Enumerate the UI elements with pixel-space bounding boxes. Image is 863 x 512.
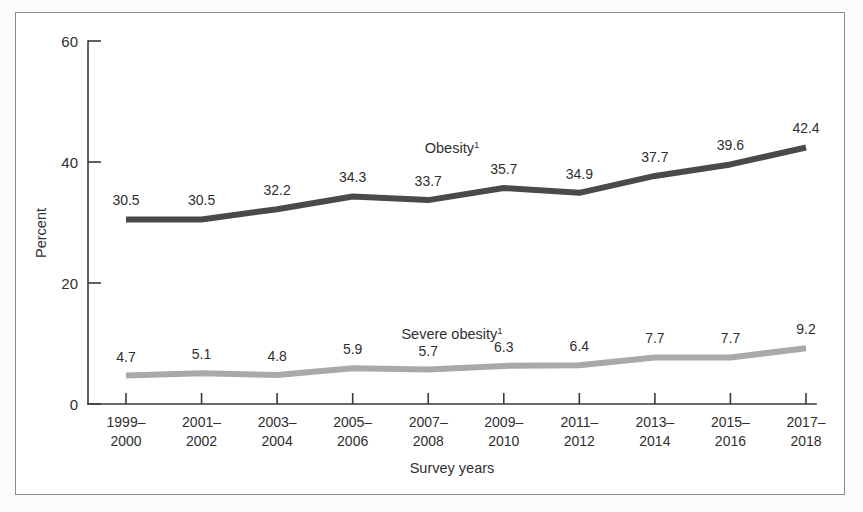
data-value-label: 5.9 — [343, 341, 363, 357]
x-category-label: 2013– — [635, 414, 674, 430]
x-category-label: 2015– — [711, 414, 750, 430]
y-axis-title: Percent — [33, 208, 49, 258]
x-category-label: 2002 — [186, 433, 217, 449]
y-tick-label-0: 0 — [70, 396, 78, 413]
x-category-label: 2005– — [333, 414, 372, 430]
data-value-label: 9.2 — [796, 321, 816, 337]
series-label-severe-obesity: Severe obesity1 — [401, 325, 502, 342]
series-label-obesity: Obesity1 — [425, 139, 479, 156]
x-category-label: 2010 — [488, 433, 519, 449]
data-value-label: 32.2 — [263, 182, 290, 198]
data-value-label: 4.7 — [116, 349, 136, 365]
figure-frame: 60 40 20 0 Percent 1999–20002001–2002200… — [15, 12, 845, 495]
series-line-severe-obesity — [126, 348, 806, 375]
data-value-label: 7.7 — [721, 330, 741, 346]
data-value-label: 39.6 — [717, 137, 744, 153]
line-chart: 60 40 20 0 Percent 1999–20002001–2002200… — [16, 13, 846, 496]
data-value-label: 34.3 — [339, 169, 366, 185]
x-category-label: 2016 — [715, 433, 746, 449]
data-value-label: 6.4 — [570, 338, 590, 354]
x-category-label: 1999– — [107, 414, 146, 430]
data-value-label: 7.7 — [645, 330, 665, 346]
data-value-label: 35.7 — [490, 161, 517, 177]
x-category-label: 2003– — [258, 414, 297, 430]
data-value-label: 34.9 — [566, 166, 593, 182]
data-value-label: 42.4 — [792, 120, 819, 136]
y-tick-label-60: 60 — [61, 33, 78, 50]
y-tick-label-20: 20 — [61, 275, 78, 292]
x-category-label: 2006 — [337, 433, 368, 449]
x-category-label: 2001– — [182, 414, 221, 430]
x-category-label: 2009– — [484, 414, 523, 430]
series-inline-labels: Obesity1 Severe obesity1 — [401, 139, 502, 342]
data-value-label: 30.5 — [188, 192, 215, 208]
x-category-label: 2017– — [787, 414, 826, 430]
x-category-label: 2004 — [262, 433, 293, 449]
x-category-label: 2007– — [409, 414, 448, 430]
x-tick-marks — [126, 393, 806, 404]
chart-area: 60 40 20 0 Percent 1999–20002001–2002200… — [16, 13, 844, 494]
x-category-label: 2011– — [560, 414, 598, 430]
y-tick-labels: 60 40 20 0 — [61, 33, 78, 413]
x-category-label: 2012 — [564, 433, 595, 449]
x-category-label: 2000 — [110, 433, 141, 449]
data-value-label: 37.7 — [641, 149, 668, 165]
x-category-label: 2008 — [413, 433, 444, 449]
data-value-label: 33.7 — [415, 173, 442, 189]
scanned-page: 60 40 20 0 Percent 1999–20002001–2002200… — [0, 0, 863, 512]
y-tick-label-40: 40 — [61, 154, 78, 171]
series-line-obesity — [126, 147, 806, 219]
data-value-label: 5.1 — [192, 346, 212, 362]
data-value-label: 5.7 — [418, 343, 438, 359]
y-tick-marks — [88, 41, 101, 404]
x-axis-title: Survey years — [410, 460, 495, 476]
x-category-label: 2018 — [790, 433, 821, 449]
x-category-label: 2014 — [639, 433, 670, 449]
x-category-labels: 1999–20002001–20022003–20042005–20062007… — [107, 414, 826, 449]
data-value-label: 30.5 — [112, 192, 139, 208]
data-value-label: 4.8 — [267, 348, 287, 364]
